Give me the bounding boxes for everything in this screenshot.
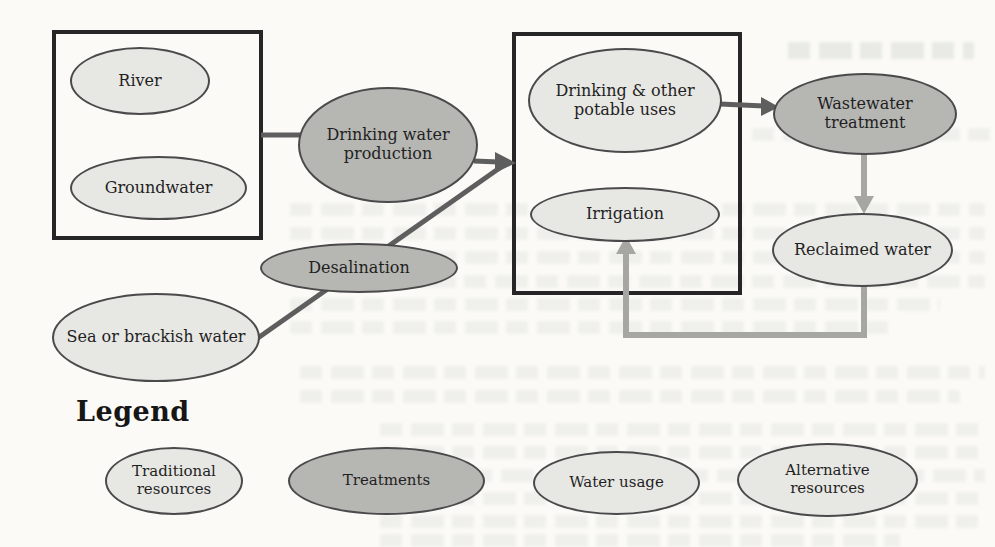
legend-item-treatments-label: Treatments bbox=[343, 472, 431, 490]
legend-item-water-usage-label: Water usage bbox=[569, 474, 664, 492]
scanned-page: River Groundwater Drinking water product… bbox=[0, 0, 995, 547]
node-drinking-water-production: Drinking water production bbox=[298, 87, 478, 203]
node-desalination: Desalination bbox=[260, 243, 458, 293]
node-groundwater-label: Groundwater bbox=[105, 179, 213, 198]
legend-item-alternative-resources: Alternative resources bbox=[737, 443, 918, 517]
node-reclaimed-water: Reclaimed water bbox=[772, 213, 953, 287]
node-irrigation: Irrigation bbox=[530, 187, 720, 242]
node-wastewater-treatment: Wastewater treatment bbox=[773, 73, 957, 155]
node-wastewater-treatment-label: Wastewater treatment bbox=[787, 95, 943, 133]
node-desalination-label: Desalination bbox=[308, 259, 410, 278]
node-river-label: River bbox=[118, 72, 161, 91]
edge-potable-to-wastewater bbox=[720, 104, 764, 106]
node-river: River bbox=[70, 47, 210, 115]
node-groundwater: Groundwater bbox=[70, 156, 247, 220]
legend-item-treatments: Treatments bbox=[288, 447, 485, 515]
arrowhead-into-reclaimed-water bbox=[854, 196, 874, 214]
node-sea-or-brackish-water-label: Sea or brackish water bbox=[66, 328, 245, 347]
node-drinking-other-potable-uses: Drinking & other potable uses bbox=[528, 48, 722, 153]
legend-item-traditional-resources: Traditional resources bbox=[105, 447, 243, 515]
node-drinking-other-potable-uses-label: Drinking & other potable uses bbox=[542, 82, 708, 120]
legend-item-water-usage: Water usage bbox=[533, 451, 700, 515]
legend-title: Legend bbox=[76, 396, 190, 427]
legend-item-traditional-resources-label: Traditional resources bbox=[119, 463, 229, 498]
node-sea-or-brackish-water: Sea or brackish water bbox=[52, 293, 260, 382]
legend-item-alternative-resources-label: Alternative resources bbox=[751, 462, 904, 497]
node-irrigation-label: Irrigation bbox=[586, 205, 664, 224]
node-reclaimed-water-label: Reclaimed water bbox=[794, 241, 931, 260]
node-drinking-water-production-label: Drinking water production bbox=[312, 126, 464, 164]
